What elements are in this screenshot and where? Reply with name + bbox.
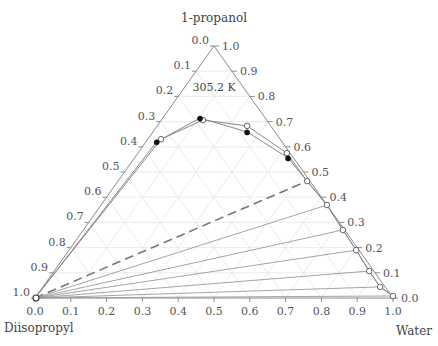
left-tick-label: 0.5 <box>102 160 120 173</box>
right-tick-label: 0.2 <box>365 242 383 255</box>
filled-circle-marker <box>197 116 202 121</box>
bottom-tick-label: 0.1 <box>62 305 80 318</box>
left-tick-label: 0.4 <box>120 135 138 148</box>
filled-circle-marker <box>286 156 291 161</box>
grid-line <box>196 71 357 298</box>
left-tick-label: 1.0 <box>13 286 31 299</box>
open-circle-marker <box>390 293 396 299</box>
open-circle-marker <box>377 284 383 290</box>
open-circle-marker <box>284 150 290 156</box>
right-tick-label: 0.8 <box>258 90 276 103</box>
bottom-tick-label: 0.4 <box>169 305 187 318</box>
axis-ticks: 0.00.00.00.10.10.10.20.20.20.30.30.30.40… <box>13 34 419 318</box>
bottom-tick-label: 0.8 <box>313 305 331 318</box>
left-tick-label: 0.9 <box>30 261 48 274</box>
grid-line <box>214 172 304 298</box>
open-circle-marker <box>340 227 346 233</box>
right-tick-label: 0.7 <box>276 116 294 129</box>
tie-line <box>35 250 356 298</box>
left-tick-label: 0.6 <box>84 185 102 198</box>
bottom-tick-label: 0.5 <box>205 305 223 318</box>
right-tick-label: 0.9 <box>240 65 258 78</box>
temperature-annotation: 305.2 K <box>192 81 236 94</box>
ternary-chart: 0.00.00.00.10.10.10.20.20.20.30.30.30.40… <box>0 0 438 346</box>
bottom-tick-label: 0.7 <box>277 305 295 318</box>
right-tick-label: 0.4 <box>329 191 347 204</box>
bottom-tick-label: 0.0 <box>26 305 44 318</box>
right-tick-label: 0.3 <box>347 216 365 229</box>
open-circle-marker <box>366 268 372 274</box>
open-circle-marker <box>244 123 250 129</box>
left-tick-label: 0.3 <box>138 110 156 123</box>
right-tick-label: 0.1 <box>383 267 401 280</box>
bottom-tick-label: 0.3 <box>134 305 152 318</box>
right-tick-label: 1.0 <box>222 40 240 53</box>
tie-line-dashed <box>35 181 307 298</box>
grid-line <box>125 172 215 298</box>
grid-line <box>286 222 340 298</box>
vertex-label-bottom-left: Diisopropyl <box>4 321 74 335</box>
filled-circle-marker <box>245 130 250 135</box>
vertex-label-top: 1-propanol <box>181 11 247 25</box>
grid-line <box>160 122 285 298</box>
filled-circle-marker <box>154 140 159 145</box>
bottom-tick-label: 0.9 <box>348 305 366 318</box>
left-tick-label: 0.8 <box>48 236 66 249</box>
open-circle-marker <box>324 202 330 208</box>
bottom-tick-label: 1.0 <box>384 305 402 318</box>
right-tick-label: 0.0 <box>401 292 419 305</box>
left-tick-label: 0.0 <box>192 34 210 47</box>
bottom-tick-label: 0.2 <box>98 305 116 318</box>
grid-line <box>89 222 143 298</box>
left-tick-label: 0.7 <box>66 210 84 223</box>
open-circle-marker <box>353 247 359 253</box>
tie-line <box>35 271 369 298</box>
bottom-tick-label: 0.6 <box>241 305 259 318</box>
left-tick-label: 0.2 <box>156 84 174 97</box>
right-tick-label: 0.5 <box>312 166 330 179</box>
vertex-label-bottom-right: Water <box>396 324 432 338</box>
left-tick-label: 0.1 <box>174 59 192 72</box>
grid-line <box>142 122 267 298</box>
open-circle-marker <box>304 178 310 184</box>
right-tick-label: 0.6 <box>294 141 312 154</box>
corner-marker <box>33 295 39 301</box>
